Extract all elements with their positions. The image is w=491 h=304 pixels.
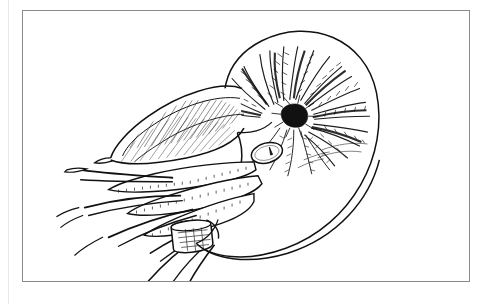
shell-group	[23, 11, 469, 281]
nautilus-drawing	[23, 11, 469, 281]
figure-frame	[22, 10, 470, 282]
illustration-page	[0, 0, 491, 304]
page-edge-rule	[8, 0, 9, 304]
